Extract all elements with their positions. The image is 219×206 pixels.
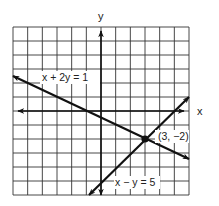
intersection-point xyxy=(141,135,148,142)
plot-area: x + 2y = 1 x − y = 5 (3, −2) y x xyxy=(0,0,219,206)
line1-label: x + 2y = 1 xyxy=(42,71,88,83)
axes xyxy=(18,31,184,195)
point-label: (3, −2) xyxy=(158,130,189,142)
linear-system-graph: x + 2y = 1 x − y = 5 (3, −2) y x xyxy=(0,0,219,206)
y-axis-label: y xyxy=(98,10,104,22)
line2-label: x − y = 5 xyxy=(115,176,155,188)
x-axis-label: x xyxy=(197,105,203,117)
